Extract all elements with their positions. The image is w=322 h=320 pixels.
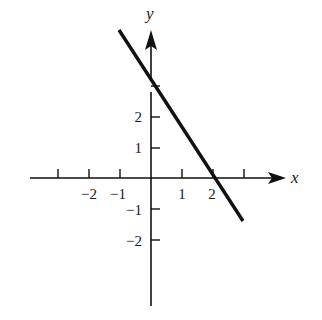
coordinate-graph: −2 −1 1 2 x 2 1 −1 −2 y <box>0 0 322 320</box>
y-tick-label: −1 <box>126 202 142 218</box>
y-axis-label: y <box>144 4 154 23</box>
x-tick-label: 1 <box>178 186 186 202</box>
y-tick-label: 1 <box>135 140 143 156</box>
x-tick-label: −2 <box>81 186 97 202</box>
y-tick-label: 2 <box>135 109 143 125</box>
y-tick-label: −2 <box>126 233 142 249</box>
x-axis: −2 −1 1 2 x <box>30 168 299 202</box>
x-tick-label: 2 <box>208 186 216 202</box>
x-tick-label: −1 <box>110 186 126 202</box>
x-axis-label: x <box>290 168 299 187</box>
